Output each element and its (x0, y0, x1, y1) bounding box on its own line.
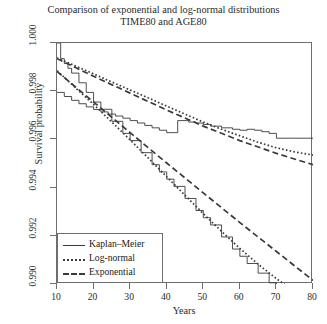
x-axis-tick-label: 80 (297, 291, 327, 302)
y-axis: Survival probability 1.0000.9980.9960.99… (0, 0, 56, 324)
y-axis-tick-label: 0.992 (10, 223, 56, 233)
figure: Comparison of exponential and log-normal… (0, 0, 327, 324)
legend-key-solid (63, 245, 85, 246)
x-axis-tick-label: 30 (114, 291, 144, 302)
legend-key-dotted (63, 259, 85, 261)
y-axis-tick-text: 0.998 (28, 73, 38, 94)
y-axis-tick-label: 0.998 (10, 78, 56, 88)
legend: Kaplan–MeierLog-normalExponential (57, 233, 163, 283)
x-axis-tick-label: 50 (187, 291, 217, 302)
legend-key-dashed (63, 273, 85, 275)
x-axis-tick-label: 20 (78, 291, 108, 302)
x-axis-tick-label: 70 (260, 291, 290, 302)
series-age80-log-normal (57, 58, 313, 155)
y-axis-tick-label: 1.000 (10, 30, 56, 40)
legend-label: Exponential (89, 266, 135, 277)
y-axis-tick (50, 42, 56, 43)
plot-area: Kaplan–MeierLog-normalExponential (56, 42, 312, 283)
y-axis-tick-text: 0.992 (28, 217, 38, 238)
x-axis-tick-label: 60 (224, 291, 254, 302)
x-axis-tick (202, 283, 203, 289)
y-axis-tick-label: 0.994 (10, 175, 56, 185)
x-axis-tick (93, 283, 94, 289)
y-axis-tick-text: 0.996 (28, 121, 38, 142)
y-axis-tick (50, 235, 56, 236)
series-age80-kaplan-meier (57, 92, 313, 138)
y-axis-tick-text: 0.990 (28, 266, 38, 287)
y-axis-tick-text: 1.000 (28, 25, 38, 46)
x-axis-tick (129, 283, 130, 289)
legend-label: Log-normal (89, 252, 135, 263)
y-axis-tick (50, 90, 56, 91)
y-axis-tick-label: 0.990 (10, 271, 56, 281)
y-axis-tick-text: 0.994 (28, 169, 38, 190)
y-axis-tick (50, 138, 56, 139)
y-axis-tick (50, 187, 56, 188)
x-axis-tick-label: 40 (151, 291, 181, 302)
x-axis-tick (56, 283, 57, 289)
x-axis-tick-label: 10 (41, 291, 71, 302)
x-axis-tick (239, 283, 240, 289)
legend-label: Kaplan–Meier (89, 238, 144, 249)
x-axis-tick (312, 283, 313, 289)
x-axis-title: Years (56, 305, 312, 316)
y-axis-tick-label: 0.996 (10, 126, 56, 136)
x-axis-tick (275, 283, 276, 289)
x-axis-tick (166, 283, 167, 289)
